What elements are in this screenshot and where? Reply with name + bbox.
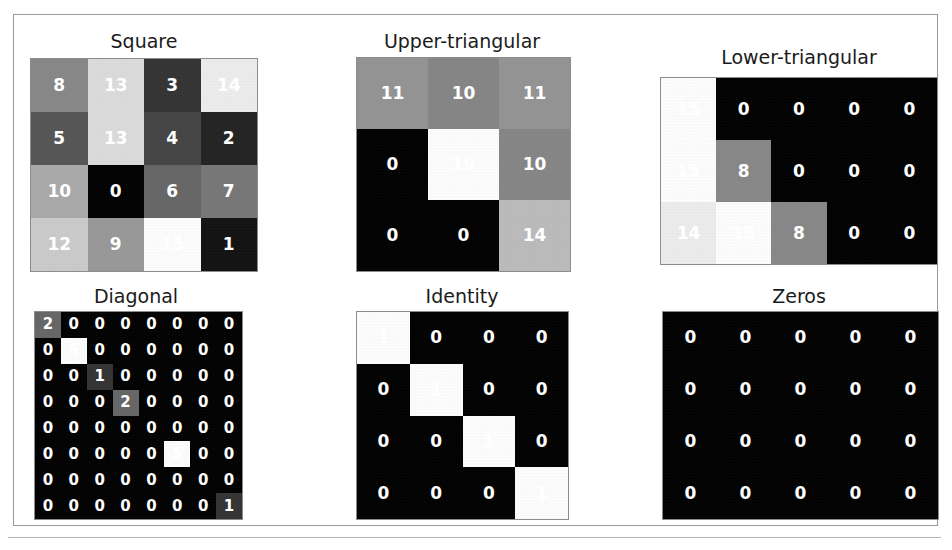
matrix-cell: 0 [61, 441, 87, 467]
matrix-cell-value: 0 [120, 317, 130, 332]
matrix-cell: 0 [87, 493, 113, 519]
matrix-cell: 0 [882, 140, 937, 202]
matrix-cell: 0 [216, 312, 242, 338]
matrix-cell-value: 5 [69, 343, 79, 358]
matrix-cell-value: 0 [224, 343, 234, 358]
matrix-cell: 0 [357, 416, 410, 468]
matrix-cell: 0 [61, 390, 87, 416]
matrix-cell: 6 [144, 165, 201, 218]
matrix-cell-value: 19 [452, 156, 476, 173]
matrix-cell-value: 2 [43, 317, 53, 332]
heatmap-identity[interactable]: 1000010000100001 [356, 311, 569, 520]
matrix-cell: 0 [164, 364, 190, 390]
matrix-cell: 0 [216, 416, 242, 442]
matrix-cell: 0 [35, 441, 61, 467]
matrix-cell: 0 [410, 467, 463, 519]
matrix-cell: 0 [357, 467, 410, 519]
matrix-cell: 0 [87, 312, 113, 338]
matrix-cell: 0 [663, 364, 718, 416]
heatmap-diagonal[interactable]: 2000000005000000001000000002000000000000… [34, 311, 243, 520]
heatmap-square[interactable]: 8133145134210067129151 [30, 58, 258, 272]
matrix-cell: 0 [190, 364, 216, 390]
matrix-cell: 0 [113, 416, 139, 442]
heatmap-upper-triangular[interactable]: 111011019100014 [356, 57, 571, 272]
matrix-cell-value: 0 [430, 329, 442, 346]
matrix-cell: 0 [88, 165, 145, 218]
matrix-cell-value: 0 [795, 433, 807, 450]
matrix-cell: 0 [61, 493, 87, 519]
matrix-figure: Square 8133145134210067129151 Upper-tria… [0, 0, 952, 550]
matrix-cell: 0 [35, 493, 61, 519]
matrix-cell: 2 [113, 390, 139, 416]
panel-zeros: Zeros 00000000000000000000 [660, 284, 938, 518]
matrix-cell: 0 [216, 338, 242, 364]
matrix-cell: 0 [35, 416, 61, 442]
matrix-cell-value: 1 [224, 499, 234, 514]
panel-title-diagonal: Diagonal [30, 284, 242, 308]
matrix-cell-value: 2 [223, 130, 235, 147]
matrix-cell-value: 14 [523, 227, 547, 244]
matrix-cell-value: 15 [677, 163, 701, 180]
matrix-cell-value: 0 [738, 101, 750, 118]
panel-lower-triangular: Lower-triangular 1500001580001415800 [660, 45, 938, 271]
matrix-cell-value: 12 [47, 236, 71, 253]
matrix-cell-value: 0 [43, 447, 53, 462]
matrix-cell-value: 0 [120, 473, 130, 488]
matrix-cell: 1 [410, 364, 463, 416]
matrix-cell: 0 [410, 416, 463, 468]
matrix-cell: 2 [201, 112, 258, 165]
matrix-cell: 0 [773, 364, 828, 416]
matrix-cell: 0 [882, 78, 937, 140]
matrix-cell: 14 [499, 200, 570, 271]
matrix-cell-value: 0 [172, 473, 182, 488]
matrix-cell: 0 [718, 467, 773, 519]
matrix-cell-value: 0 [224, 317, 234, 332]
matrix-cell-value: 0 [848, 163, 860, 180]
matrix-cell: 0 [883, 364, 938, 416]
matrix-cell-value: 0 [69, 317, 79, 332]
matrix-cell: 0 [773, 416, 828, 468]
matrix-cell-value: 0 [43, 499, 53, 514]
matrix-cell: 0 [718, 312, 773, 364]
matrix-cell-value: 0 [172, 395, 182, 410]
figure-baseline-rule [8, 537, 941, 538]
matrix-cell: 0 [357, 364, 410, 416]
matrix-cell-value: 0 [172, 369, 182, 384]
heatmap-zeros[interactable]: 00000000000000000000 [662, 311, 939, 520]
matrix-cell-value: 0 [740, 485, 752, 502]
matrix-cell-value: 0 [740, 329, 752, 346]
matrix-cell: 0 [35, 467, 61, 493]
matrix-cell: 0 [663, 312, 718, 364]
matrix-cell-value: 0 [685, 485, 697, 502]
matrix-cell-value: 0 [120, 343, 130, 358]
matrix-cell-value: 0 [850, 485, 862, 502]
matrix-cell: 0 [139, 416, 165, 442]
matrix-cell: 0 [35, 390, 61, 416]
matrix-cell-value: 0 [458, 227, 470, 244]
matrix-cell-value: 0 [850, 381, 862, 398]
matrix-cell-value: 0 [905, 485, 917, 502]
matrix-cell-value: 0 [536, 433, 548, 450]
matrix-cell-value: 3 [166, 77, 178, 94]
matrix-cell-value: 0 [224, 447, 234, 462]
matrix-cell-value: 14 [677, 225, 701, 242]
matrix-cell: 0 [113, 338, 139, 364]
matrix-cell-value: 5 [172, 447, 182, 462]
matrix-cell-value: 0 [377, 381, 389, 398]
matrix-cell-value: 0 [224, 395, 234, 410]
matrix-cell: 0 [113, 364, 139, 390]
matrix-cell: 14 [661, 202, 716, 264]
matrix-cell-value: 0 [172, 317, 182, 332]
matrix-cell: 5 [164, 441, 190, 467]
matrix-cell-value: 0 [146, 395, 156, 410]
matrix-cell: 5 [61, 338, 87, 364]
matrix-cell: 14 [201, 59, 258, 112]
matrix-cell-value: 0 [903, 163, 915, 180]
heatmap-lower-triangular[interactable]: 1500001580001415800 [660, 77, 938, 265]
matrix-cell: 0 [216, 441, 242, 467]
matrix-cell-value: 0 [69, 421, 79, 436]
matrix-cell-value: 0 [94, 343, 104, 358]
matrix-cell: 0 [773, 467, 828, 519]
matrix-cell: 1 [463, 416, 516, 468]
matrix-cell-value: 14 [217, 77, 241, 94]
